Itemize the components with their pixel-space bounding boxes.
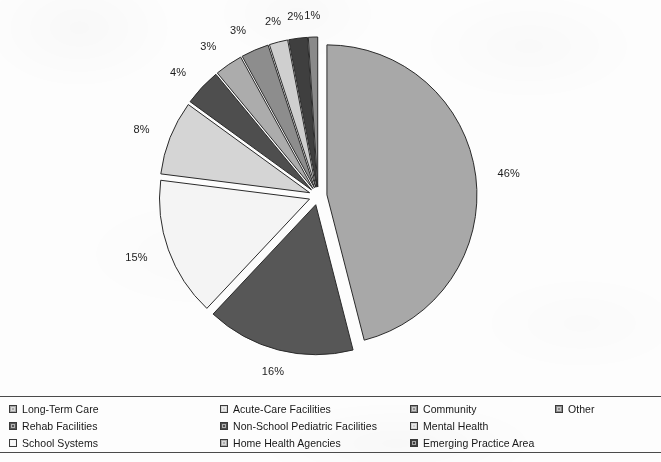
legend-item-label: Other	[568, 403, 595, 415]
legend-top-rule	[0, 396, 661, 397]
legend-item: Mental Health	[401, 420, 546, 432]
legend-item: Home Health Agencies	[211, 437, 401, 449]
legend-item: School Systems	[0, 437, 211, 449]
legend-item: Non-School Pediatric Facilities	[211, 420, 401, 432]
legend-color-swatch	[220, 422, 228, 430]
legend-bottom-rule	[0, 452, 661, 453]
pie-percent-label: 2%	[287, 10, 303, 22]
pie-percent-label: 1%	[304, 9, 320, 21]
legend-color-swatch	[555, 405, 563, 413]
legend-item-label: Rehab Facilities	[22, 420, 98, 432]
pie-percent-label: 46%	[498, 167, 520, 179]
legend-item: Acute-Care Facilities	[211, 403, 401, 415]
legend-item-label: Community	[423, 403, 477, 415]
pie-slice	[327, 45, 477, 340]
pie-chart-svg: 46%16%15%8%4%3%3%2%2%1%	[0, 0, 661, 392]
legend-item-label: Long-Term Care	[22, 403, 99, 415]
pie-percent-label: 3%	[230, 24, 246, 36]
pie-slices-group	[160, 37, 477, 355]
legend-color-swatch	[9, 422, 17, 430]
legend-color-swatch	[410, 422, 418, 430]
pie-percent-label: 16%	[262, 365, 284, 377]
legend-color-swatch	[410, 405, 418, 413]
legend-color-swatch	[220, 405, 228, 413]
legend-grid: Long-Term CareRehab FacilitiesSchool Sys…	[0, 400, 661, 451]
legend-item: Long-Term Care	[0, 403, 211, 415]
legend-item-label: Non-School Pediatric Facilities	[233, 420, 377, 432]
legend-item-label: School Systems	[22, 437, 98, 449]
legend-item: Rehab Facilities	[0, 420, 211, 432]
legend-color-swatch	[9, 439, 17, 447]
pie-chart-area: 46%16%15%8%4%3%3%2%2%1%	[0, 0, 661, 392]
chart-legend: Long-Term CareRehab FacilitiesSchool Sys…	[0, 396, 661, 458]
legend-color-swatch	[220, 439, 228, 447]
legend-item: Emerging Practice Area	[401, 437, 546, 449]
pie-percent-label: 2%	[265, 15, 281, 27]
pie-percent-label: 15%	[125, 251, 147, 263]
legend-item: Community	[401, 403, 546, 415]
legend-item-label: Acute-Care Facilities	[233, 403, 331, 415]
legend-item-label: Emerging Practice Area	[423, 437, 534, 449]
pie-percent-label: 3%	[200, 40, 216, 52]
pie-percent-label: 8%	[134, 123, 150, 135]
legend-color-swatch	[9, 405, 17, 413]
legend-item-label: Mental Health	[423, 420, 488, 432]
legend-item: Other	[546, 403, 661, 415]
pie-percent-label: 4%	[170, 66, 186, 78]
legend-item-label: Home Health Agencies	[233, 437, 341, 449]
legend-color-swatch	[410, 439, 418, 447]
